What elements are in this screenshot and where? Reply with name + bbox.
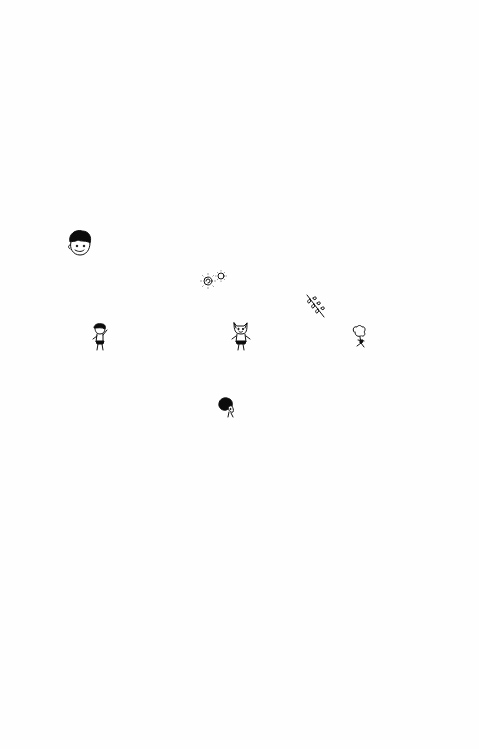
leafy-sprig-doodle (304, 292, 328, 320)
cat-figure-doodle (230, 320, 252, 352)
running-boy-doodle (90, 322, 110, 352)
sketch-page (0, 0, 479, 749)
curly-figure-doodle (350, 324, 368, 350)
boy-head-doodle (64, 228, 96, 260)
two-suns-doodle (198, 268, 230, 290)
round-head-doodle (217, 397, 237, 419)
